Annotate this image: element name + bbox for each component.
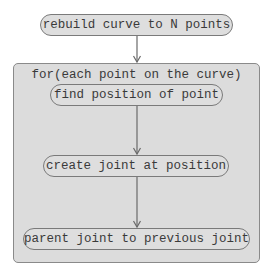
connector-arrows [0, 0, 271, 276]
